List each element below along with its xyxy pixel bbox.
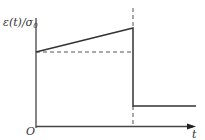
x-axis-label: t xyxy=(192,128,197,140)
origin-label: O xyxy=(26,125,35,138)
y-axis-label: ε(t)/σ0 xyxy=(3,16,38,30)
creep-diagram: ε(t)/σ0 O t xyxy=(0,0,205,140)
response-curve xyxy=(36,28,196,106)
